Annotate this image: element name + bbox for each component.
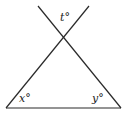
angle-label-t: t° [60,11,70,24]
right-crossing-line [38,6,121,108]
angle-label-y: y° [91,92,104,105]
diagram-canvas: t° x° y° [0,0,127,114]
angle-label-x: x° [19,92,31,105]
angle-diagram: t° x° y° [0,0,127,114]
